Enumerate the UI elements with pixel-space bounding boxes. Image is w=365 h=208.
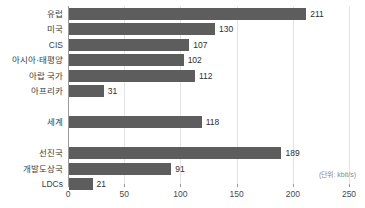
bar-value-label: 130: [219, 25, 233, 34]
bar-row: 선진국189: [68, 146, 349, 162]
bar: [69, 163, 171, 175]
bar-value-label: 102: [188, 56, 202, 65]
row-spacer: [68, 99, 349, 115]
bar-value-label: 118: [206, 118, 220, 127]
bar: [69, 54, 184, 66]
x-axis: 050100150200250: [68, 184, 349, 204]
bar-row: CIS107: [68, 37, 349, 53]
gridline: [349, 6, 350, 184]
category-label: 아랍 국가: [29, 72, 63, 81]
unit-annotation: (단위: kbit/s): [319, 169, 356, 179]
axis-tick: [349, 184, 350, 187]
bar-value-label: 107: [193, 41, 207, 50]
x-tick-label: 200: [286, 189, 300, 199]
bar-row: 아시아·태평양102: [68, 53, 349, 69]
bar-value-label: 189: [285, 149, 299, 158]
bar-row: 유럽211: [68, 6, 349, 22]
category-label: LDCs: [42, 180, 63, 189]
x-tick-label: 150: [230, 189, 244, 199]
bar: [69, 116, 202, 128]
bar-value-label: 91: [175, 165, 184, 174]
bar-row: 개발도상국91: [68, 161, 349, 177]
bar: [69, 39, 189, 51]
bar-row: 세계118: [68, 115, 349, 131]
category-label: 개발도상국: [23, 165, 63, 174]
x-tick-label: 50: [119, 189, 128, 199]
category-label: CIS: [49, 41, 63, 50]
bar-rows: 유럽211미국130CIS107아시아·태평양102아랍 국가112아프리카31…: [68, 6, 349, 184]
axis-tick: [68, 184, 69, 187]
bar-row: 아프리카31: [68, 84, 349, 100]
bar: [69, 70, 195, 82]
bar: [69, 85, 104, 97]
bar-value-label: 112: [199, 72, 213, 81]
plot-area: 유럽211미국130CIS107아시아·태평양102아랍 국가112아프리카31…: [68, 6, 349, 184]
axis-tick: [124, 184, 125, 187]
axis-tick: [237, 184, 238, 187]
category-label: 유럽: [47, 10, 63, 19]
bar-value-label: 211: [310, 10, 324, 19]
axis-tick: [180, 184, 181, 187]
bar-row: 아랍 국가112: [68, 68, 349, 84]
category-label: 아시아·태평양: [12, 56, 63, 65]
x-tick-label: 0: [66, 189, 71, 199]
axis-tick: [293, 184, 294, 187]
row-spacer: [68, 130, 349, 146]
category-label: 미국: [47, 25, 63, 34]
bar-chart: 유럽211미국130CIS107아시아·태평양102아랍 국가112아프리카31…: [0, 0, 365, 208]
bar: [69, 147, 281, 159]
bar: [69, 8, 306, 20]
bar-row: 미국130: [68, 22, 349, 38]
x-tick-label: 250: [342, 189, 356, 199]
bar: [69, 23, 215, 35]
category-label: 아프리카: [31, 87, 63, 96]
category-label: 선진국: [39, 149, 63, 158]
bar-value-label: 31: [108, 87, 117, 96]
category-label: 세계: [47, 118, 63, 127]
x-tick-label: 100: [173, 189, 187, 199]
